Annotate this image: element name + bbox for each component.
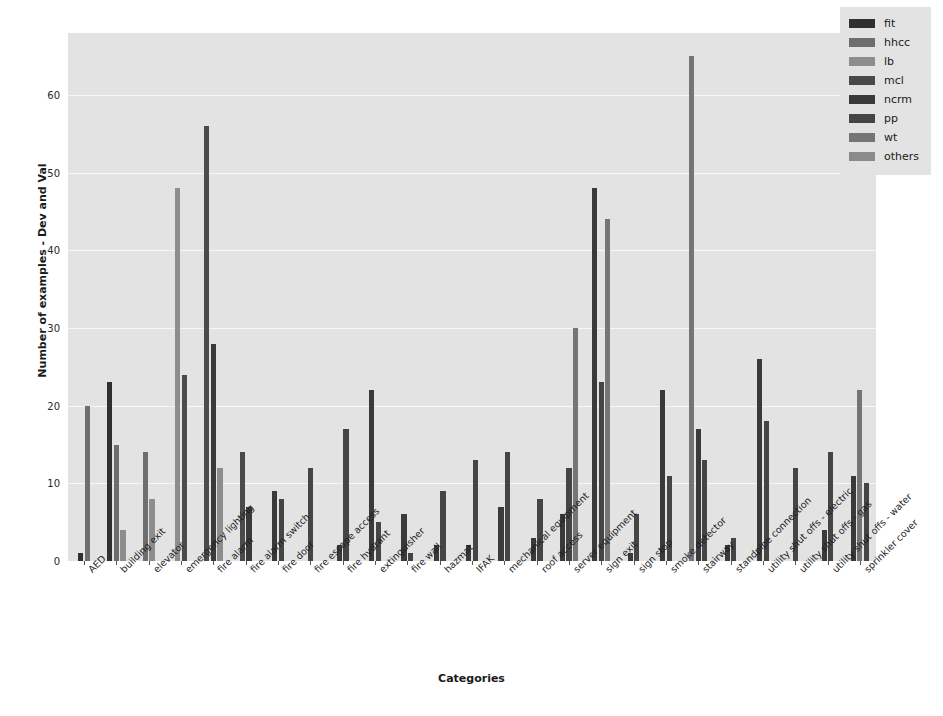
x-axis-label: Categories: [0, 672, 943, 685]
legend-label: pp: [884, 113, 898, 124]
bar-group: [682, 33, 714, 561]
x-tick-mark: [666, 561, 667, 565]
x-tick-mark: [504, 561, 505, 565]
bar: [408, 553, 413, 561]
bar-group: [262, 33, 294, 561]
legend-item: fit: [849, 15, 919, 31]
bar: [120, 530, 125, 561]
legend-swatch: [849, 152, 875, 161]
x-tick-mark: [472, 561, 473, 565]
bar-group: [197, 33, 229, 561]
x-tick-mark: [310, 561, 311, 565]
x-tick-mark: [569, 561, 570, 565]
legend-label: mcl: [884, 75, 904, 86]
y-axis-label-holder: Number of examples - Dev and Val: [10, 0, 38, 716]
bar: [505, 452, 510, 561]
legend-label: hhcc: [884, 37, 910, 48]
bar-group: [133, 33, 165, 561]
bar: [592, 188, 597, 561]
bar-group: [714, 33, 746, 561]
bar: [182, 375, 187, 561]
bar-chart-figure: 0102030405060 Number of examples - Dev a…: [0, 0, 943, 716]
bar-group: [488, 33, 520, 561]
bar-group: [391, 33, 423, 561]
x-tick-mark: [246, 561, 247, 565]
legend-label: others: [884, 151, 919, 162]
x-tick-mark: [278, 561, 279, 565]
x-tick-mark: [84, 561, 85, 565]
plot-area: [68, 33, 876, 561]
bar: [85, 406, 90, 561]
bar-group: [327, 33, 359, 561]
x-tick-mark: [407, 561, 408, 565]
bar: [634, 514, 639, 561]
bar-group: [747, 33, 779, 561]
legend-swatch: [849, 57, 875, 66]
legend: fithhcclbmclncrmppwtothers: [840, 7, 931, 175]
x-tick-mark: [731, 561, 732, 565]
bar-group: [424, 33, 456, 561]
x-tick-mark: [213, 561, 214, 565]
bar: [864, 483, 869, 561]
x-tick-mark: [440, 561, 441, 565]
legend-swatch: [849, 114, 875, 123]
bar: [175, 188, 180, 561]
x-tick-mark: [763, 561, 764, 565]
bar-group: [68, 33, 100, 561]
bar: [689, 56, 694, 561]
bar: [473, 460, 478, 561]
x-tick-mark: [795, 561, 796, 565]
bar-group: [520, 33, 552, 561]
x-tick-mark: [860, 561, 861, 565]
x-tick-mark: [375, 561, 376, 565]
bar-group: [553, 33, 585, 561]
bar: [369, 390, 374, 561]
bar: [757, 359, 762, 561]
legend-swatch: [849, 19, 875, 28]
legend-item: wt: [849, 129, 919, 145]
bar-group: [359, 33, 391, 561]
legend-item: lb: [849, 53, 919, 69]
x-tick-mark: [181, 561, 182, 565]
y-axis-label: Number of examples - Dev and Val: [36, 71, 49, 471]
legend-swatch: [849, 95, 875, 104]
bar: [573, 328, 578, 561]
bar-group: [100, 33, 132, 561]
bar-group: [230, 33, 262, 561]
x-tick-mark: [698, 561, 699, 565]
x-tick-mark: [828, 561, 829, 565]
legend-item: others: [849, 148, 919, 164]
bar: [204, 126, 209, 561]
legend-item: ncrm: [849, 91, 919, 107]
legend-label: lb: [884, 56, 894, 67]
bar: [660, 390, 665, 561]
bar: [440, 491, 445, 561]
legend-item: pp: [849, 110, 919, 126]
x-tick-mark: [537, 561, 538, 565]
legend-item: hhcc: [849, 34, 919, 50]
bar-group: [617, 33, 649, 561]
x-axis-ticks: AEDbuilding exitelevatoremergency lighti…: [68, 561, 876, 661]
x-tick-mark: [601, 561, 602, 565]
legend-swatch: [849, 38, 875, 47]
bar-group: [585, 33, 617, 561]
x-tick-mark: [343, 561, 344, 565]
legend-label: fit: [884, 18, 895, 29]
legend-item: mcl: [849, 72, 919, 88]
bar: [114, 445, 119, 561]
x-tick-mark: [634, 561, 635, 565]
bar-group: [779, 33, 811, 561]
x-tick-mark: [149, 561, 150, 565]
bar: [605, 219, 610, 561]
bar: [211, 344, 216, 561]
legend-label: wt: [884, 132, 897, 143]
bar: [107, 382, 112, 561]
bar-group: [294, 33, 326, 561]
bar-group: [811, 33, 843, 561]
bar-group: [456, 33, 488, 561]
legend-label: ncrm: [884, 94, 912, 105]
legend-swatch: [849, 76, 875, 85]
bar: [498, 507, 503, 561]
legend-swatch: [849, 133, 875, 142]
bar-group: [650, 33, 682, 561]
